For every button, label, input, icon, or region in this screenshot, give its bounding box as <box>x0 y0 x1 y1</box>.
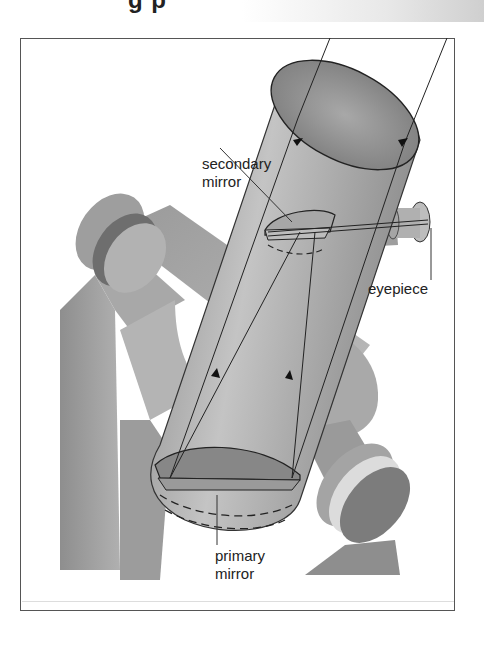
label-secondary-mirror: secondary mirror <box>202 155 271 191</box>
label-primary-mirror: primary mirror <box>215 547 265 583</box>
label-secondary-mirror-line1: secondary <box>202 155 271 173</box>
label-primary-mirror-line1: primary <box>215 547 265 565</box>
label-primary-mirror-line2: mirror <box>215 565 265 583</box>
label-eyepiece: eyepiece <box>368 280 428 298</box>
label-secondary-mirror-line2: mirror <box>202 173 271 191</box>
